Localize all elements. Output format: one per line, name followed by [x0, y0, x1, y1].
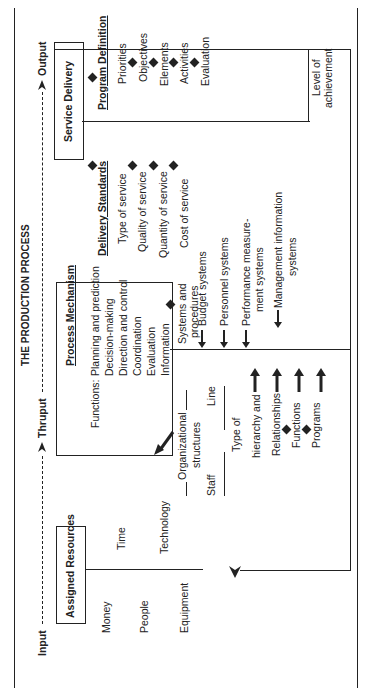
diamond-bullet-icon — [149, 161, 159, 171]
system-personnel: Personnel systems — [218, 237, 230, 326]
delivery-standards-heading: Delivery Standards — [96, 161, 108, 256]
org-staff-label: Staff — [205, 475, 217, 496]
achievement-label: Level of — [310, 59, 322, 96]
flow-input-label: Input — [36, 630, 48, 656]
standard-item: Quality of service — [136, 171, 148, 252]
resource-equipment: Equipment — [178, 583, 190, 633]
achievement-top — [308, 50, 309, 122]
line-bracket — [224, 386, 225, 430]
hierarchy-type-label: Type of — [230, 418, 242, 452]
standard-item: Quantity of service — [157, 171, 169, 258]
org-structures-label: Organizational — [176, 412, 188, 480]
diamond-bullet-icon — [169, 58, 179, 68]
arrow-up-icon — [316, 368, 326, 392]
flow-output-label: Output — [36, 42, 48, 76]
standard-item: Cost of service — [178, 179, 190, 248]
standard-item: Type of service — [116, 173, 128, 244]
arrow-down-icon — [220, 330, 228, 348]
resource-time: Time — [115, 527, 127, 550]
chain-relationships: Relationships — [270, 393, 282, 456]
functions-label: Functions: — [89, 380, 101, 428]
program-item: Activities — [178, 43, 190, 84]
system-performance: ment systems — [253, 247, 265, 312]
arrow-down-icon — [274, 310, 282, 328]
function-item: Decision-making — [103, 298, 115, 376]
chain-functions: Functions — [290, 402, 302, 448]
arrow-up-left-icon — [152, 426, 176, 456]
diamond-bullet-icon — [149, 58, 159, 68]
system-management-info: Management information — [272, 192, 284, 308]
function-item: Direction and control — [117, 280, 129, 376]
system-budget: Budget systems — [196, 251, 208, 326]
arrow-right-icon — [37, 78, 47, 90]
process-mechanism-heading: Process Mechanism — [64, 265, 76, 366]
achievement-label: achievement — [322, 48, 334, 108]
frame-top-line — [14, 8, 15, 688]
service-delivery-heading: Service Delivery — [62, 61, 74, 142]
system-performance: Performance measure- — [240, 219, 252, 326]
system-management-info: systems — [286, 237, 298, 276]
arrow-up-icon — [250, 368, 260, 392]
org-line-left — [186, 482, 187, 496]
flow-dash-2 — [42, 92, 43, 392]
program-item: Priorities — [116, 43, 128, 84]
staff-bracket — [224, 452, 225, 496]
production-process-diagram: THE PRODUCTION PROCESS Input Thruput Out… — [0, 0, 372, 696]
function-item: Coordination — [131, 316, 143, 376]
chain-programs: Programs — [310, 402, 322, 448]
assigned-resources-heading: Assigned Resources — [64, 514, 76, 618]
flow-thruput-label: Thruput — [36, 398, 48, 438]
arrow-down-icon — [242, 330, 250, 348]
hierarchy-type-label: hierarchy and — [250, 394, 262, 458]
resource-technology: Technology — [158, 501, 170, 554]
service-delivery-stem — [82, 121, 310, 122]
arrow-left-icon — [229, 564, 241, 578]
function-item: Evaluation — [145, 327, 157, 376]
diamond-bullet-icon — [190, 58, 200, 68]
program-item: Evaluation — [199, 37, 211, 86]
org-line-right — [186, 390, 187, 410]
program-item: Elements — [158, 42, 170, 86]
resource-people: People — [138, 600, 150, 633]
resources-stem — [85, 569, 203, 570]
program-definition-heading: Program Definition — [96, 15, 108, 110]
arrow-down-icon — [198, 330, 206, 348]
org-structures-label: structures — [190, 422, 202, 468]
diamond-bullet-icon — [128, 58, 138, 68]
resource-money: Money — [100, 601, 112, 633]
arrow-up-icon — [272, 368, 282, 392]
systems-heading: Systems and — [176, 283, 188, 344]
systems-divider — [170, 349, 350, 350]
flow-dash-1 — [42, 456, 43, 624]
feedback-bottom-line — [350, 49, 351, 571]
arrow-up-icon — [294, 368, 304, 392]
feedback-bottom-stem — [240, 570, 350, 571]
diamond-bullet-icon — [169, 161, 179, 171]
diagram-title: THE PRODUCTION PROCESS — [20, 224, 32, 366]
org-line-label: Line — [205, 386, 217, 406]
function-item: Planning and prediction — [89, 266, 101, 376]
program-item: Objectives — [137, 33, 149, 82]
frame-bottom-line — [357, 8, 358, 688]
diamond-bullet-icon — [128, 161, 138, 171]
arrow-right-icon — [37, 440, 47, 452]
